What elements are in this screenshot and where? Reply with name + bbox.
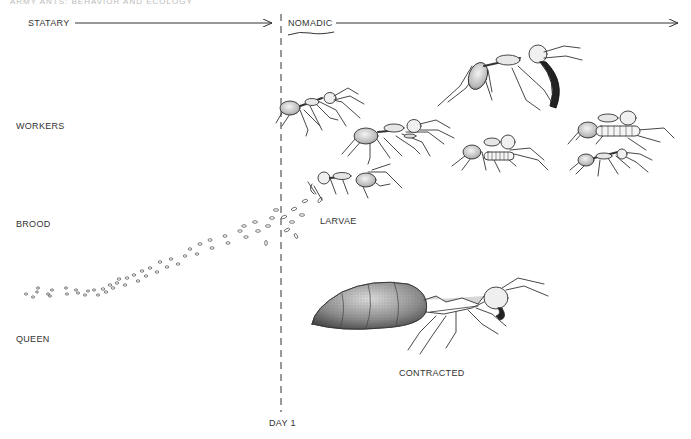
queen-ant-contracted xyxy=(312,278,548,354)
worker-ant-soldier xyxy=(438,45,582,110)
worker-ant-1 xyxy=(276,88,364,136)
brood-trail xyxy=(24,197,322,298)
worker-ant-3 xyxy=(308,164,402,200)
day-1-label: DAY 1 xyxy=(269,418,296,428)
contracted-label: CONTRACTED xyxy=(399,368,465,378)
worker-ants xyxy=(276,45,674,200)
worker-ant-4 xyxy=(452,135,548,172)
phase-label-nomadic: NOMADIC xyxy=(288,18,333,28)
worker-ant-5 xyxy=(568,111,674,150)
worker-ant-6 xyxy=(570,149,652,176)
nomadic-underline xyxy=(288,32,334,35)
row-label-brood: BROOD xyxy=(16,219,51,229)
worker-ant-2 xyxy=(342,120,454,165)
larvae-label: LARVAE xyxy=(320,216,357,226)
phase-label-statary: STATARY xyxy=(28,18,69,28)
row-label-queen: QUEEN xyxy=(16,334,50,344)
row-label-workers: WORKERS xyxy=(16,121,65,131)
